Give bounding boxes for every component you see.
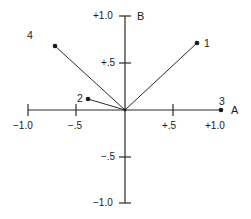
vector-diagram: B A +1.0 +.5 −.5 −1.0 −1.0 −.5 +.5 +1.0 … <box>0 0 251 219</box>
x-tick-label-minus-0-5: −.5 <box>68 121 82 131</box>
x-tick-label-plus-1: +1.0 <box>205 121 225 131</box>
point-3-label: 3 <box>219 96 225 106</box>
y-axis-label: B <box>137 11 144 21</box>
point-4-label: 4 <box>27 30 33 40</box>
point-2-marker <box>86 97 91 102</box>
x-axis-label: A <box>231 105 238 115</box>
point-1-marker <box>195 41 200 46</box>
point-2-label: 2 <box>77 93 83 103</box>
x-tick-label-minus-1: −1.0 <box>13 121 33 131</box>
point-4-marker <box>53 44 58 49</box>
x-tick-label-plus-0-5: +.5 <box>162 121 176 131</box>
y-tick-label-minus-0-5: −.5 <box>101 152 115 162</box>
diagram-canvas <box>0 0 251 219</box>
origin-marker <box>124 109 127 112</box>
y-tick-label-plus-0-5: +.5 <box>101 58 115 68</box>
point-3-marker <box>219 108 224 113</box>
y-tick-label-minus-1: −1.0 <box>93 198 113 208</box>
vector-1 <box>125 43 197 110</box>
vector-4 <box>55 46 125 110</box>
point-1-label: 1 <box>204 38 210 48</box>
y-tick-label-plus-1: +1.0 <box>93 11 113 21</box>
